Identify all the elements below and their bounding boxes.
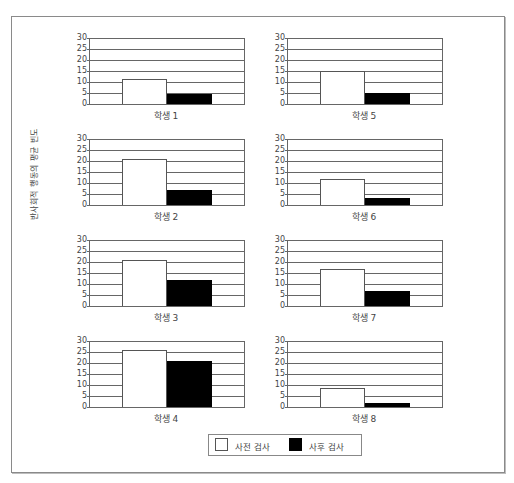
bar-chart-panel: 051015202530학생 4 [89,341,243,427]
y-tick-label: 0 [82,201,87,209]
gridline [90,38,244,39]
y-tick-label: 0 [82,302,87,310]
bar-pre-test [320,388,365,407]
tick-mark [285,71,288,72]
gridline [288,273,442,274]
y-tick-label: 10 [275,280,285,288]
y-axis-label: 반사회적 행동의 평균 빈도 [28,128,39,220]
gridline [90,60,244,61]
y-tick-label: 25 [77,45,87,53]
gridline [288,385,442,386]
bar-chart-panel: 051015202530학생 2 [89,139,243,225]
y-tick-label: 20 [275,258,285,266]
y-tick-label: 10 [275,381,285,389]
tick-mark [285,93,288,94]
gridline [90,273,244,274]
y-tick-label: 5 [280,291,285,299]
gridline [288,161,442,162]
tick-mark [87,341,90,342]
bar-post-test [167,280,212,306]
y-tick-label: 30 [77,337,87,345]
bar-pre-test [122,79,167,104]
y-tick-label: 30 [77,236,87,244]
bar-pre-test [320,269,365,306]
bar-post-test [365,291,410,306]
tick-mark [87,93,90,94]
tick-mark [87,251,90,252]
y-tick-label: 10 [77,381,87,389]
y-tick-label: 0 [82,403,87,411]
gridline [90,150,244,151]
bar-post-test [167,190,212,205]
bar-pre-test [320,71,365,104]
tick-mark [87,139,90,140]
y-tick-label: 15 [77,370,87,378]
tick-mark [285,407,288,408]
panel-title: 학생 8 [287,412,441,425]
bar-chart-panel: 051015202530학생 7 [287,240,441,326]
y-tick-label: 20 [275,157,285,165]
gridline [90,139,244,140]
gridline [90,240,244,241]
panel-title: 학생 1 [89,109,243,122]
y-tick-label: 15 [77,168,87,176]
gridline [288,240,442,241]
tick-mark [87,407,90,408]
y-tick-label: 10 [77,78,87,86]
y-tick-label: 0 [82,100,87,108]
tick-mark [285,49,288,50]
legend-label-post: 사후 검사 [309,440,344,452]
bar-pre-test [320,179,365,205]
bar-post-test [167,94,212,104]
tick-mark [87,104,90,105]
tick-mark [87,374,90,375]
plot-area: 051015202530 [89,341,245,408]
tick-mark [87,262,90,263]
gridline [288,150,442,151]
tick-mark [285,240,288,241]
tick-mark [87,284,90,285]
y-tick-label: 15 [77,269,87,277]
plot-area: 051015202530 [287,341,443,408]
gridline [90,341,244,342]
tick-mark [87,183,90,184]
gridline [288,251,442,252]
tick-mark [87,194,90,195]
panel-title: 학생 2 [89,210,243,223]
gridline [90,49,244,50]
tick-mark [87,161,90,162]
tick-mark [285,139,288,140]
y-tick-label: 20 [77,359,87,367]
y-tick-label: 10 [275,78,285,86]
gridline [90,251,244,252]
gridline [288,183,442,184]
tick-mark [285,262,288,263]
y-tick-label: 10 [77,280,87,288]
bar-post-test [167,361,212,407]
tick-mark [285,183,288,184]
y-tick-label: 25 [275,45,285,53]
y-tick-label: 15 [275,168,285,176]
bar-post-test [365,93,410,104]
tick-mark [285,363,288,364]
tick-mark [285,385,288,386]
tick-mark [285,161,288,162]
bar-chart-panel: 051015202530학생 3 [89,240,243,326]
tick-mark [87,385,90,386]
tick-mark [285,374,288,375]
gridline [90,172,244,173]
tick-mark [87,38,90,39]
tick-mark [285,341,288,342]
bar-chart-panel: 051015202530학생 5 [287,38,441,124]
y-tick-label: 25 [275,247,285,255]
tick-mark [87,295,90,296]
tick-mark [285,352,288,353]
gridline [288,172,442,173]
y-tick-label: 25 [275,348,285,356]
legend: 사전 검사 사후 검사 [208,434,362,456]
tick-mark [285,295,288,296]
gridline [288,82,442,83]
y-tick-label: 20 [77,157,87,165]
tick-mark [87,352,90,353]
panel-title: 학생 4 [89,412,243,425]
